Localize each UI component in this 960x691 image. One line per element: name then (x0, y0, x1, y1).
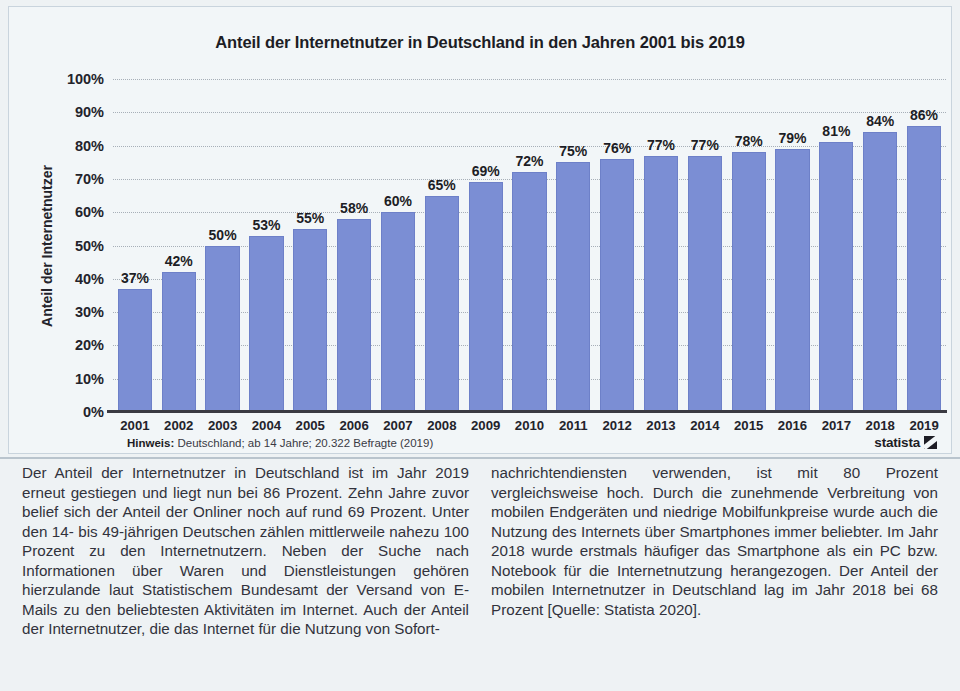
bar-slot: 58%2006 (332, 79, 376, 412)
footnote-text: Deutschland; ab 14 Jahre; 20.322 Befragt… (174, 437, 433, 449)
y-axis-tick-label: 50% (75, 238, 104, 254)
bar[interactable] (425, 196, 459, 412)
article-column-right: nachrichtendiensten verwenden, ist mit 8… (491, 463, 938, 689)
footnote-prefix: Hinweis: (127, 437, 174, 449)
bar[interactable] (819, 142, 853, 412)
bar[interactable] (118, 289, 152, 412)
bar[interactable] (644, 156, 678, 412)
y-axis-tick-label: 70% (75, 171, 104, 187)
bar-value-label: 60% (376, 193, 420, 209)
bar-slot: 81%2017 (814, 79, 858, 412)
bar-value-label: 42% (157, 253, 201, 269)
bar-value-label: 55% (288, 210, 332, 226)
article-paragraph-left: Der Anteil der Internetnutzer in Deutsch… (22, 463, 469, 639)
bar-value-label: 77% (639, 137, 683, 153)
y-axis-tick-label: 100% (67, 71, 104, 87)
bar-slot: 72%2010 (508, 79, 552, 412)
bar-value-label: 77% (683, 137, 727, 153)
bar-value-label: 37% (113, 270, 157, 286)
bar-value-label: 86% (902, 107, 946, 123)
statista-logo: statista (874, 435, 937, 450)
bar[interactable] (688, 156, 722, 412)
bar-slot: 76%2012 (595, 79, 639, 412)
bar[interactable] (732, 152, 766, 412)
bar-value-label: 53% (245, 217, 289, 233)
article-body: Der Anteil der Internetnutzer in Deutsch… (0, 463, 960, 689)
bar-slot: 53%2004 (245, 79, 289, 412)
bar-slot: 75%2011 (551, 79, 595, 412)
article-column-left: Der Anteil der Internetnutzer in Deutsch… (22, 463, 469, 689)
bar-slot: 77%2014 (683, 79, 727, 412)
y-axis-tick-label: 10% (75, 371, 104, 387)
y-axis-tick-label: 60% (75, 204, 104, 220)
y-axis-tick-label: 0% (83, 404, 104, 420)
bar-slot: 78%2015 (727, 79, 771, 412)
bar-value-label: 84% (858, 113, 902, 129)
bar-series: 37%200142%200250%200353%200455%200558%20… (113, 79, 946, 412)
bar-slot: 84%2018 (858, 79, 902, 412)
section-divider (0, 457, 960, 459)
bar[interactable] (337, 219, 371, 412)
plot-area: 100%90%80%70%60%50%40%30%20%10%0% 37%200… (113, 79, 946, 412)
bar-value-label: 79% (771, 130, 815, 146)
y-axis-tick-label: 20% (75, 337, 104, 353)
bar[interactable] (293, 229, 327, 412)
chart-panel: Anteil der Internetnutzer in Deutschland… (8, 6, 952, 454)
bar-slot: 79%2016 (771, 79, 815, 412)
bar[interactable] (162, 272, 196, 412)
bar-slot: 50%2003 (201, 79, 245, 412)
bar-value-label: 76% (595, 140, 639, 156)
bar[interactable] (556, 162, 590, 412)
y-axis-title-label: Anteil der Internetnutzer (39, 165, 55, 327)
x-axis-line (107, 410, 947, 413)
bar-value-label: 81% (814, 123, 858, 139)
statista-wordmark: statista (874, 435, 920, 450)
article-paragraph-right: nachrichtendiensten verwenden, ist mit 8… (491, 463, 938, 619)
x-axis-tick-label: 2019 (896, 418, 952, 433)
bar-value-label: 58% (332, 200, 376, 216)
bar[interactable] (863, 132, 897, 412)
bar-slot: 42%2002 (157, 79, 201, 412)
bar[interactable] (600, 159, 634, 412)
bar-slot: 77%2013 (639, 79, 683, 412)
bar-slot: 37%2001 (113, 79, 157, 412)
bar[interactable] (512, 172, 546, 412)
bar[interactable] (249, 236, 283, 412)
statista-mark-icon (924, 436, 937, 449)
bar[interactable] (907, 126, 941, 412)
bar-value-label: 50% (201, 227, 245, 243)
bar-slot: 60%2007 (376, 79, 420, 412)
bar[interactable] (775, 149, 809, 412)
y-axis-title: Anteil der Internetnutzer (37, 79, 57, 412)
bar[interactable] (205, 246, 239, 413)
bar-value-label: 78% (727, 133, 771, 149)
bar-slot: 69%2009 (464, 79, 508, 412)
bar-slot: 55%2005 (288, 79, 332, 412)
y-axis-tick-label: 30% (75, 304, 104, 320)
chart-footnote: Hinweis: Deutschland; ab 14 Jahre; 20.32… (127, 437, 433, 449)
y-axis-tick-label: 90% (75, 104, 104, 120)
y-axis-tick-label: 80% (75, 138, 104, 154)
bar-slot: 86%2019 (902, 79, 946, 412)
bar-value-label: 72% (508, 153, 552, 169)
y-axis-tick-label: 40% (75, 271, 104, 287)
bar[interactable] (381, 212, 415, 412)
bar-slot: 65%2008 (420, 79, 464, 412)
bar[interactable] (469, 182, 503, 412)
chart-title: Anteil der Internetnutzer in Deutschland… (9, 33, 951, 52)
bar-value-label: 75% (551, 143, 595, 159)
bar-value-label: 65% (420, 177, 464, 193)
bar-value-label: 69% (464, 163, 508, 179)
